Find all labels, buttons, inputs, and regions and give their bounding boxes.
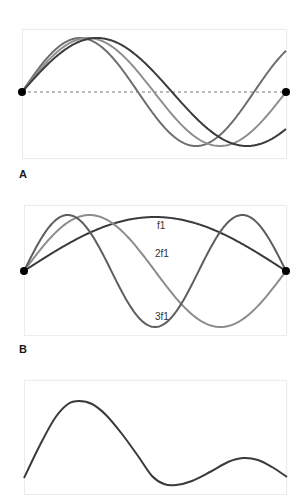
endpoint-dot-b-left xyxy=(20,267,28,275)
curve-labels: f12f13f1 xyxy=(155,220,169,322)
harmonic-f1-label: f1 xyxy=(157,220,166,231)
endpoint-dot-b-right xyxy=(282,267,290,275)
endpoint-dot-a-left xyxy=(18,88,26,96)
panel-a-plot xyxy=(22,38,286,146)
panel-c-plot xyxy=(24,401,287,485)
endpoint-dot-a-right xyxy=(282,88,290,96)
harmonic-3f1-label: 3f1 xyxy=(155,311,169,322)
harmonic-2f1-label: 2f1 xyxy=(155,248,169,259)
complex-wave-curve xyxy=(24,401,287,485)
